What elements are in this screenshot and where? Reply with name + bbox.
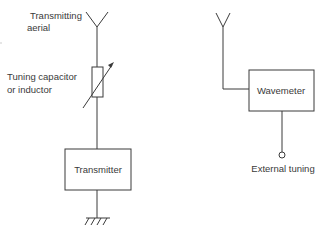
aerial-label-line1: Transmitting bbox=[30, 10, 82, 21]
external-tuning-label: External tuning bbox=[251, 163, 314, 174]
aerial-label-line2: aerial bbox=[27, 22, 50, 33]
transmitter-block: Transmitter bbox=[65, 149, 131, 190]
tuning-label-line2: or inductor bbox=[7, 84, 52, 95]
tuning-label-line1: Tuning capacitor bbox=[7, 71, 77, 82]
ground-icon bbox=[85, 218, 110, 225]
tuning-capacitor-icon bbox=[83, 62, 114, 108]
transmitter-label: Transmitter bbox=[74, 164, 122, 175]
stray-mark bbox=[0, 42, 1, 43]
external-tuning-terminal-icon bbox=[279, 152, 285, 158]
aerial-to-wavemeter-wire bbox=[223, 27, 249, 89]
wavemeter-label: Wavemeter bbox=[257, 85, 305, 96]
transmitting-aerial-icon bbox=[86, 12, 108, 27]
wavemeter-block: Wavemeter bbox=[249, 70, 314, 111]
wavemeter-aerial-icon bbox=[216, 13, 230, 27]
diagram-canvas: Transmitting aerial Tuning capacitor or … bbox=[0, 0, 324, 235]
